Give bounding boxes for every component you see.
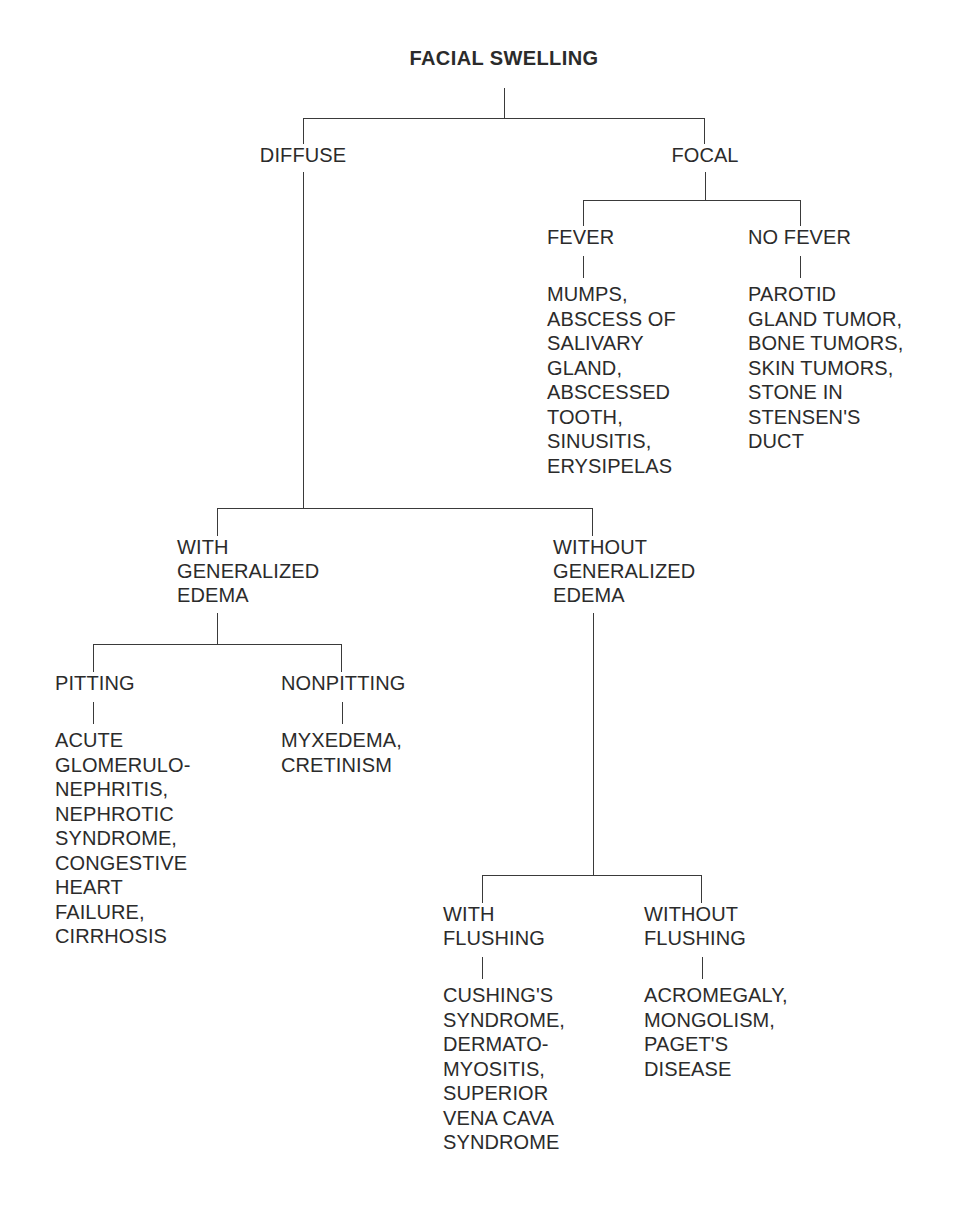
facial-swelling-decision-tree: FACIAL SWELLING DIFFUSE FOCAL FEVER MUMP… — [0, 0, 954, 1206]
connector-edema-split — [217, 508, 593, 536]
connector-with-edema-stem — [217, 613, 218, 644]
node-focal: FOCAL — [671, 143, 738, 167]
list-nonpitting-diagnoses: MYXEDEMA, CRETINISM — [281, 728, 456, 777]
node-no-fever: NO FEVER — [748, 225, 851, 249]
connector-fever-stem — [583, 256, 584, 278]
node-pitting: PITTING — [55, 671, 135, 695]
connector-root-stem — [504, 88, 505, 118]
root-node-facial-swelling: FACIAL SWELLING — [410, 46, 599, 70]
list-no-fever-diagnoses: PAROTID GLAND TUMOR, BONE TUMORS, SKIN T… — [748, 282, 918, 454]
node-diffuse: DIFFUSE — [260, 143, 346, 167]
list-pitting-diagnoses: ACUTE GLOMERULO- NEPHRITIS, NEPHROTIC SY… — [55, 728, 235, 949]
connector-no-fever-stem — [800, 256, 801, 278]
connector-flushing-split — [482, 875, 702, 903]
connector-diffuse-stem — [303, 172, 304, 508]
node-without-flushing: WITHOUT FLUSHING — [644, 902, 814, 950]
connector-focal-split — [583, 200, 801, 226]
node-with-generalized-edema: WITH GENERALIZED EDEMA — [177, 535, 357, 607]
connector-pitting-split — [93, 644, 342, 672]
connector-root-split — [303, 118, 705, 144]
list-without-flushing-diagnoses: ACROMEGALY, MONGOLISM, PAGET'S DISEASE — [644, 983, 824, 1081]
list-with-flushing-diagnoses: CUSHING'S SYNDROME, DERMATO- MYOSITIS, S… — [443, 983, 613, 1155]
connector-without-edema-stem — [593, 613, 594, 875]
node-fever: FEVER — [547, 225, 614, 249]
connector-focal-stem — [705, 172, 706, 200]
node-with-flushing: WITH FLUSHING — [443, 902, 593, 950]
connector-with-flushing-stem — [482, 957, 483, 979]
connector-without-flushing-stem — [702, 957, 703, 979]
list-fever-diagnoses: MUMPS, ABSCESS OF SALIVARY GLAND, ABSCES… — [547, 282, 707, 478]
node-without-generalized-edema: WITHOUT GENERALIZED EDEMA — [553, 535, 743, 607]
connector-pitting-stem — [93, 702, 94, 724]
node-nonpitting: NONPITTING — [281, 671, 405, 695]
connector-nonpitting-stem — [342, 702, 343, 724]
